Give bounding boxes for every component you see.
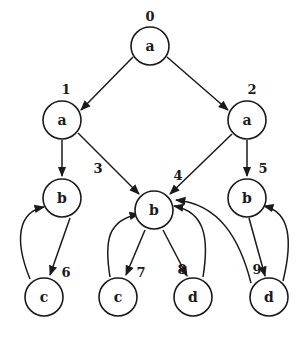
node-label: a: [57, 112, 66, 128]
node-5: b5: [228, 161, 268, 218]
node-label: b: [57, 190, 67, 206]
node-label: a: [242, 112, 251, 128]
node-label: c: [40, 289, 49, 305]
node-id-label: 0: [145, 9, 154, 24]
node-id-label: 6: [61, 265, 70, 280]
node-4: b4: [135, 168, 183, 230]
node-label: b: [149, 202, 159, 218]
node-id-label: 2: [247, 82, 256, 97]
node-8: d8: [174, 262, 212, 317]
node-id-label: 8: [177, 262, 186, 277]
node-id-label: 9: [252, 262, 261, 277]
edge-7-to-4: [108, 214, 139, 277]
node-id-label: 3: [93, 161, 102, 176]
node-0: a0: [131, 9, 169, 66]
node-label: b: [242, 190, 252, 206]
node-3: b3: [43, 161, 103, 218]
edge-0-to-1: [81, 57, 133, 110]
edge-0-to-2: [167, 57, 228, 110]
node-label: c: [114, 289, 123, 305]
node-id-label: 5: [258, 161, 267, 176]
node-label: d: [264, 289, 274, 305]
node-1: a1: [43, 82, 81, 140]
edge-1-to-4: [78, 133, 139, 194]
node-6: c6: [25, 265, 71, 317]
nodes-layer: a0a1a2b3b4b5c6c7d8d9: [25, 9, 288, 317]
node-label: d: [188, 289, 198, 305]
node-id-label: 7: [136, 265, 145, 280]
edge-9-to-5: [264, 206, 288, 281]
node-label: a: [145, 38, 154, 54]
node-2: a2: [228, 82, 266, 140]
node-7: c7: [99, 265, 146, 317]
node-id-label: 1: [61, 82, 70, 97]
graph-diagram: a0a1a2b3b4b5c6c7d8d9: [0, 0, 301, 339]
edge-2-to-4: [170, 134, 232, 194]
node-9: d9: [250, 262, 288, 317]
edge-6-to-3: [21, 207, 44, 279]
node-id-label: 4: [173, 168, 182, 183]
